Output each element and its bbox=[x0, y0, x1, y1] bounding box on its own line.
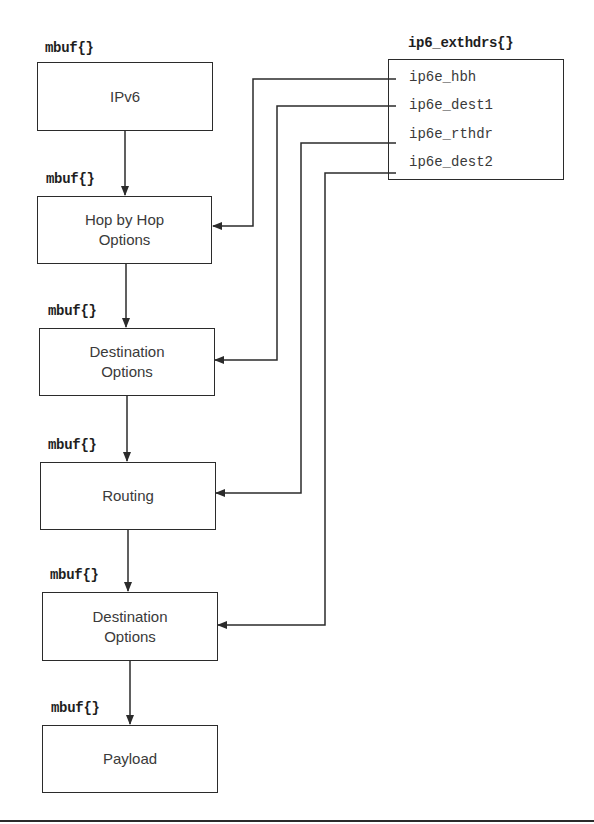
mbuf-label-dest2: mbuf{} bbox=[50, 567, 99, 583]
diagram-canvas: mbuf{} mbuf{} mbuf{} mbuf{} mbuf{} mbuf{… bbox=[0, 0, 594, 824]
destination-options-1-box: Destination Options bbox=[39, 328, 215, 396]
ip6-exthdrs-title: ip6_exthdrs{} bbox=[408, 35, 513, 51]
mbuf-label-payload: mbuf{} bbox=[51, 700, 100, 716]
hop-by-hop-options-label: Hop by Hop Options bbox=[85, 210, 164, 250]
pointer-dest2 bbox=[218, 173, 396, 625]
destination-options-1-label: Destination Options bbox=[89, 342, 164, 382]
pointer-hbh bbox=[213, 79, 396, 226]
payload-label: Payload bbox=[103, 749, 157, 769]
mbuf-label-routing: mbuf{} bbox=[48, 437, 97, 453]
routing-header-label: Routing bbox=[102, 486, 154, 506]
field-ip6e-dest1: ip6e_dest1 bbox=[409, 97, 493, 113]
pointer-rthdr bbox=[216, 143, 396, 493]
pointer-dest1 bbox=[215, 106, 396, 360]
destination-options-2-box: Destination Options bbox=[42, 592, 218, 661]
ipv6-header-label: IPv6 bbox=[110, 87, 140, 107]
field-ip6e-hbh: ip6e_hbh bbox=[409, 69, 476, 85]
ip6-exthdrs-struct-box: ip6e_hbh ip6e_dest1 ip6e_rthdr ip6e_dest… bbox=[388, 59, 564, 180]
mbuf-label-ipv6: mbuf{} bbox=[45, 40, 94, 56]
routing-header-box: Routing bbox=[40, 462, 216, 530]
field-ip6e-dest2: ip6e_dest2 bbox=[409, 154, 493, 170]
ipv6-header-box: IPv6 bbox=[37, 62, 213, 131]
mbuf-label-dest1: mbuf{} bbox=[48, 303, 97, 319]
payload-box: Payload bbox=[42, 725, 218, 793]
destination-options-2-label: Destination Options bbox=[92, 607, 167, 647]
hop-by-hop-options-box: Hop by Hop Options bbox=[37, 196, 212, 264]
field-ip6e-rthdr: ip6e_rthdr bbox=[409, 126, 493, 142]
bottom-rule-divider bbox=[0, 820, 594, 822]
mbuf-label-hbh: mbuf{} bbox=[46, 171, 95, 187]
